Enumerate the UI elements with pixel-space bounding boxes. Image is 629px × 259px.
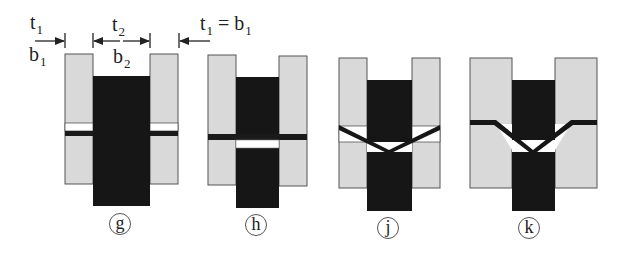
panel-g [65, 54, 178, 206]
panel-label-h: h [245, 214, 267, 236]
panel-j [339, 58, 440, 211]
panel-label-j: j [377, 217, 399, 239]
diagram: t1 b1 t2 b2 t1 = b1 g h j k [0, 0, 629, 259]
panel-h [208, 55, 307, 208]
label-b2: b2 [113, 46, 131, 69]
panel-k [470, 58, 597, 211]
label-t1-left: t1 [30, 12, 43, 35]
panel-label-g: g [109, 213, 131, 235]
label-t1-equals-b1: t1 = b1 [200, 13, 252, 36]
label-b1-left: b1 [29, 44, 47, 67]
panel-label-k: k [518, 217, 540, 239]
label-t2: t2 [112, 14, 125, 37]
